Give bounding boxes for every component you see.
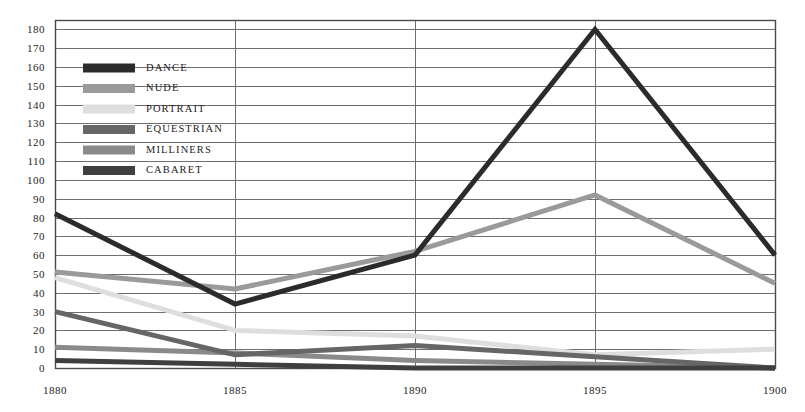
legend-swatch-equestrian — [83, 125, 135, 134]
y-tick-label-20: 20 — [33, 324, 45, 336]
line-chart: 0102030405060708090100110120130140150160… — [0, 0, 805, 412]
y-tick-label-100: 100 — [27, 174, 45, 186]
y-tick-label-70: 70 — [33, 230, 45, 242]
y-tick-label-150: 150 — [27, 80, 45, 92]
x-tick-label-1885: 1885 — [223, 384, 247, 396]
y-tick-label-110: 110 — [27, 155, 45, 167]
y-tick-label-170: 170 — [27, 42, 45, 54]
legend-label-dance: DANCE — [146, 62, 188, 73]
y-tick-label-80: 80 — [33, 212, 45, 224]
legend-item-equestrian: EQUESTRIAN — [83, 123, 223, 134]
legend-swatch-cabaret — [83, 166, 135, 175]
legend-label-portrait: PORTRAIT — [146, 103, 206, 114]
legend-label-nude: NUDE — [146, 82, 180, 93]
y-tick-label-120: 120 — [27, 136, 45, 148]
y-tick-label-130: 130 — [27, 117, 45, 129]
legend-swatch-portrait — [83, 105, 135, 114]
legend-swatch-dance — [83, 64, 135, 73]
legend-label-cabaret: CABARET — [146, 164, 203, 175]
y-tick-label-140: 140 — [27, 99, 45, 111]
x-tick-label-1895: 1895 — [583, 384, 607, 396]
legend-label-milliners: MILLINERS — [146, 144, 212, 155]
legend-swatch-milliners — [83, 146, 135, 155]
legend-item-milliners: MILLINERS — [83, 144, 212, 155]
x-tick-label-1900: 1900 — [763, 384, 787, 396]
y-tick-label-40: 40 — [33, 287, 45, 299]
x-tick-label-1880: 1880 — [43, 384, 67, 396]
legend-item-nude: NUDE — [83, 82, 180, 93]
legend-label-equestrian: EQUESTRIAN — [146, 123, 223, 134]
y-tick-label-10: 10 — [33, 343, 45, 355]
legend-swatch-nude — [83, 84, 135, 93]
y-tick-label-30: 30 — [33, 306, 45, 318]
y-tick-label-90: 90 — [33, 193, 45, 205]
chart-canvas: 0102030405060708090100110120130140150160… — [0, 0, 805, 412]
y-tick-label-50: 50 — [33, 268, 45, 280]
x-tick-label-1890: 1890 — [403, 384, 427, 396]
y-tick-label-180: 180 — [27, 23, 45, 35]
y-tick-label-60: 60 — [33, 249, 45, 261]
y-tick-label-160: 160 — [27, 61, 45, 73]
y-tick-label-0: 0 — [39, 362, 45, 374]
